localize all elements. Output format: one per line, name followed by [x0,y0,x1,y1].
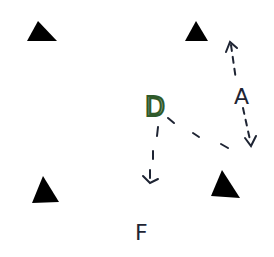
player-f-label: F [135,220,148,245]
path-d-to-a [168,118,228,148]
cone-top-right [185,21,208,41]
player-d-label: D [145,92,165,122]
cone-top-left [27,21,57,41]
arrowhead-down-icon [245,136,256,146]
player-a-label: A [234,84,249,109]
cone-bottom-left [32,176,59,203]
drill-diagram: D A F [0,0,274,257]
cone-bottom-right [211,170,240,198]
arrow-d-to-f [143,127,158,183]
